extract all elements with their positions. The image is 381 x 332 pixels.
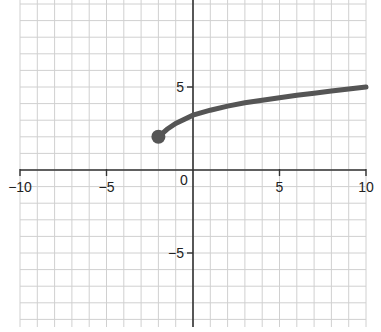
start-point-marker	[151, 130, 165, 144]
x-tick-label: 10	[358, 179, 374, 195]
y-tick-label: −5	[168, 245, 184, 261]
graph: −10−505105−5	[0, 0, 381, 332]
x-tick-label: 0	[180, 172, 188, 188]
y-tick-label: 5	[176, 79, 184, 95]
x-tick-label: 5	[276, 179, 284, 195]
x-tick-label: −10	[8, 179, 32, 195]
x-tick-label: −5	[99, 179, 115, 195]
